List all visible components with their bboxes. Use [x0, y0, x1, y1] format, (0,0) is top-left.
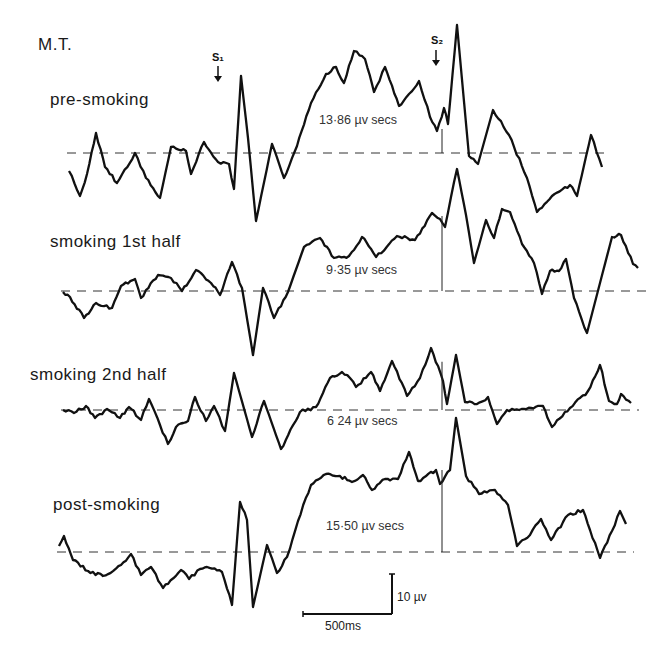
- area-value-pre-smoking: 13·86 µv secs: [319, 113, 397, 127]
- scale-bar: [303, 574, 395, 617]
- baselines: [57, 153, 646, 552]
- scale-time-label: 500ms: [325, 619, 361, 633]
- area-value-smoking-2nd-half: 6 24 µv secs: [327, 414, 397, 428]
- trace-label-smoking-2nd-half: smoking 2nd half: [30, 365, 167, 385]
- s1-label: S₁: [212, 51, 224, 63]
- s2-arrow-icon: [432, 50, 440, 66]
- s2-label: S₂: [431, 34, 443, 46]
- s1-arrow-icon: [214, 66, 222, 82]
- scale-amplitude-label: 10 µv: [397, 590, 427, 604]
- trace-smoking-2nd-half: [63, 348, 631, 449]
- trace-label-pre-smoking: pre-smoking: [50, 90, 149, 110]
- area-value-smoking-1st-half: 9·35 µv secs: [326, 263, 397, 277]
- subject-label: M.T.: [38, 35, 72, 55]
- trace-label-smoking-1st-half: smoking 1st half: [50, 232, 181, 252]
- trace-label-post-smoking: post-smoking: [53, 495, 160, 515]
- area-value-post-smoking: 15·50 µv secs: [326, 519, 404, 533]
